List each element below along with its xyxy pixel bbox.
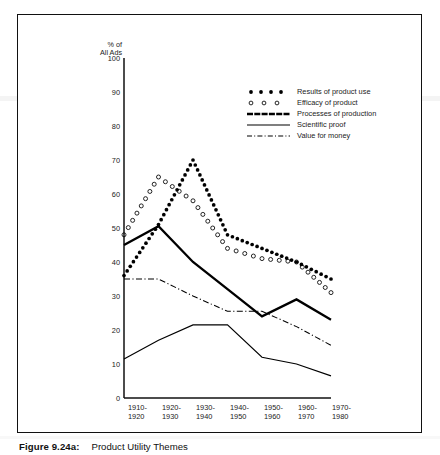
- legend-label: Scientific proof: [294, 120, 345, 129]
- legend-label: Efficacy of product: [294, 98, 358, 107]
- figure-caption-number: Figure 9.24a:: [19, 441, 79, 452]
- legend-key-thin-solid-icon: [246, 120, 294, 130]
- legend-item-processes-of-production: Processes of production: [246, 109, 376, 119]
- y-tick-label-70: 70: [96, 156, 120, 165]
- legend-key-dotted-open-circles-icon: [246, 98, 294, 108]
- y-tick-label-20: 20: [96, 326, 120, 335]
- legend-key-dash-dot-icon: [246, 131, 294, 141]
- y-tick-label-50: 50: [96, 224, 120, 233]
- legend-item-results-of-product-use: Results of product use: [246, 87, 376, 97]
- legend-label: Processes of production: [294, 109, 376, 118]
- x-tick-label-1970-1980: 1970-1980: [332, 404, 351, 421]
- y-tick-label-0: 0: [96, 394, 120, 403]
- x-tick-label-1920-1930: 1920-1930: [162, 404, 181, 421]
- x-tick-label-1960-1970: 1960-1970: [298, 404, 317, 421]
- y-tick-label-80: 80: [96, 122, 120, 131]
- legend-label: Results of product use: [294, 87, 371, 96]
- legend-item-value-for-money: Value for money: [246, 131, 376, 141]
- figure-frame: % ofAll Ads 100 90 80 70 60 50 40 30 20 …: [17, 14, 422, 433]
- chart-plot-area: [18, 15, 423, 434]
- x-tick-label-1940-1950: 1940-1950: [230, 404, 249, 421]
- y-tick-label-10: 10: [96, 360, 120, 369]
- chart-series-scientific-proof: [124, 325, 331, 376]
- figure-caption: Figure 9.24a:Product Utility Themes: [19, 441, 429, 455]
- x-tick-label-1910-1920: 1910-1920: [128, 404, 147, 421]
- legend-key-dotted-filled-circles-icon: [246, 87, 294, 97]
- figure-caption-text: Product Utility Themes: [79, 441, 187, 452]
- legend-item-scientific-proof: Scientific proof: [246, 120, 376, 130]
- y-tick-label-30: 30: [96, 292, 120, 301]
- legend-key-thick-solid-icon: [246, 109, 294, 119]
- x-tick-label-1930-1940: 1930-1940: [196, 404, 215, 421]
- scan-artifact-band-bottom: [0, 436, 440, 439]
- legend-label: Value for money: [294, 131, 350, 140]
- chart-series-results-of-product-use: [122, 158, 333, 281]
- chart-series-processes-of-production: [124, 226, 331, 319]
- y-tick-label-100: 100: [96, 54, 120, 63]
- y-tick-label-40: 40: [96, 258, 120, 267]
- y-tick-label-90: 90: [96, 88, 120, 97]
- x-tick-label-1950-1960: 1950-1960: [264, 404, 283, 421]
- chart-legend: Results of product use Efficacy of produ…: [246, 87, 376, 142]
- y-tick-label-60: 60: [96, 190, 120, 199]
- legend-item-efficacy-of-product: Efficacy of product: [246, 98, 376, 108]
